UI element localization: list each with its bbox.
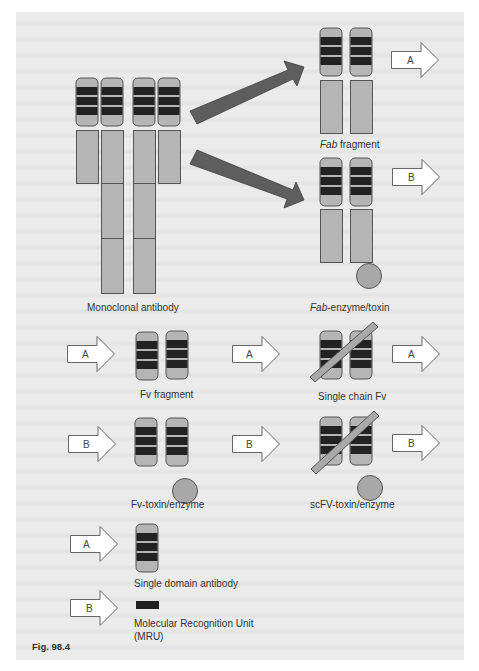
single-chain-fv: Single chain Fv: [310, 322, 386, 402]
monoclonal-antibody-label: Monoclonal antibody: [87, 302, 179, 313]
scfv-toxin-arrow-b-out: B: [393, 426, 440, 461]
scfv-arrow-a-out: A: [393, 337, 440, 372]
fab-enzyme-arrow-b: B: [393, 160, 440, 195]
monoclonal-antibody: Monoclonal antibody: [76, 78, 181, 313]
scfv-arrow-in-label: A: [246, 349, 253, 360]
fab-fragment: Fab fragment: [320, 28, 380, 150]
fab-label-rest: fragment: [337, 139, 379, 150]
mru-label-line1: Molecular Recognition Unit: [134, 618, 254, 629]
fv-toxin-arrow-b: B: [69, 427, 116, 462]
fab-enzyme-label-rest: -enzyme/toxin: [327, 302, 389, 313]
svg-text:Fab fragment: Fab fragment: [320, 139, 380, 150]
cleavage-arrow-up: [190, 61, 304, 124]
fab-arrow-a-label: A: [407, 55, 414, 66]
constant-domains: [77, 131, 181, 294]
scfv-arrow-a-in: A: [233, 337, 280, 372]
fab-enzyme-label-italic: Fab: [310, 302, 328, 313]
figure-caption: Fig. 98.4: [32, 641, 71, 652]
fv-fragment: Fv fragment: [136, 331, 194, 400]
antibody-fragments-diagram: Monoclonal antibody Fab fragment A Fab-e…: [0, 0, 479, 671]
mru-arrow-b: B: [71, 591, 118, 626]
single-domain-arrow-a-label: A: [83, 539, 90, 550]
fab-enzyme-toxin: Fab-enzyme/toxin: [310, 158, 389, 313]
scfv-toxin-label: scFV-toxin/enzyme: [310, 499, 395, 510]
scfv-label: Single chain Fv: [318, 391, 386, 402]
scfv-toxin-arrow-b-in: B: [233, 427, 280, 462]
fv-arrow-a-label: A: [82, 349, 89, 360]
mru-arrow-b-label: B: [86, 603, 93, 614]
enzyme-toxin-circle: [358, 476, 383, 501]
fv-toxin-label: Fv-toxin/enzyme: [131, 499, 205, 510]
molecular-recognition-unit: Molecular Recognition Unit (MRU): [134, 601, 254, 642]
fv-toxin-arrow-b-label: B: [83, 439, 90, 450]
fab-enzyme-arrow-b-label: B: [408, 172, 415, 183]
mru-label-line2: (MRU): [134, 631, 163, 642]
variable-domains: [76, 78, 180, 126]
fab-label-italic: Fab: [320, 139, 338, 150]
fv-arrow-a: A: [68, 337, 115, 372]
fv-fragment-label: Fv fragment: [140, 389, 194, 400]
fab-arrow-a: A: [392, 43, 439, 78]
single-domain-arrow-a: A: [71, 527, 118, 562]
single-domain-label: Single domain antibody: [134, 578, 238, 589]
scfv-arrow-out-label: A: [408, 349, 415, 360]
scfv-toxin-arrow-in-label: B: [246, 439, 253, 450]
scfv-toxin-enzyme: scFV-toxin/enzyme: [310, 411, 395, 510]
fv-toxin-enzyme: Fv-toxin/enzyme: [131, 418, 205, 510]
enzyme-toxin-circle: [357, 264, 382, 289]
scfv-toxin-arrow-out-label: B: [408, 438, 415, 449]
single-domain-antibody: Single domain antibody: [134, 524, 238, 589]
cleavage-arrow-down: [190, 150, 304, 208]
mru-bar: [136, 601, 159, 609]
svg-text:Fab-enzyme/toxin: Fab-enzyme/toxin: [310, 302, 389, 313]
